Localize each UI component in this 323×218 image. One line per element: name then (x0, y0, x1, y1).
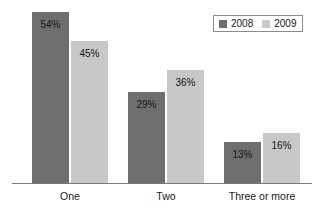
bar-two-2009: 36% (167, 70, 204, 183)
bar-two-2008-value-label: 29% (128, 99, 165, 110)
x-axis-baseline (12, 183, 312, 184)
legend-label-2009: 2009 (274, 19, 296, 29)
bar-one-2008: 54% (32, 12, 69, 183)
category-label-three-or-more: Three or more (217, 190, 307, 202)
bar-one-2009-value-label: 45% (71, 48, 108, 59)
bar-two-2009-value-label: 36% (167, 77, 204, 88)
legend-swatch-2009 (262, 20, 270, 28)
legend-entry-2008: 2008 (219, 19, 253, 29)
category-label-two: Two (128, 190, 204, 202)
legend-label-2008: 2008 (231, 19, 253, 29)
bar-one-2008-value-label: 54% (32, 19, 69, 30)
bar-three-or-more-2009-value-label: 16% (263, 140, 300, 151)
plot-area: 54%45%29%36%13%16% OneTwoThree or more (0, 0, 323, 218)
bar-one-2009: 45% (71, 41, 108, 183)
chart-legend: 2008 2009 (213, 15, 303, 32)
bar-three-or-more-2009: 16% (263, 133, 300, 183)
legend-swatch-2008 (219, 20, 227, 28)
bar-two-2008: 29% (128, 92, 165, 183)
category-label-one: One (32, 190, 108, 202)
bar-three-or-more-2008-value-label: 13% (224, 149, 261, 160)
bar-three-or-more-2008: 13% (224, 142, 261, 183)
legend-entry-2009: 2009 (262, 19, 296, 29)
grouped-bar-chart: 54%45%29%36%13%16% OneTwoThree or more 2… (0, 0, 323, 218)
